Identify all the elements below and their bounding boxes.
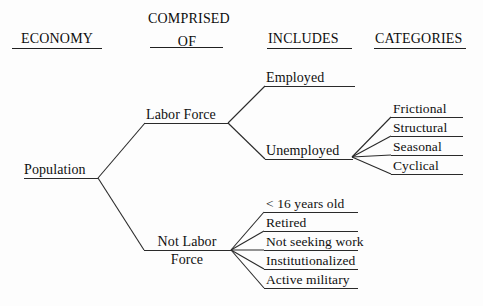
node-nlf-not-seeking-work-label: Not seeking work (266, 235, 364, 249)
column-header-includes-underline (267, 48, 352, 49)
node-employed-underline (265, 86, 355, 87)
node-labor-force-underline (144, 123, 228, 124)
node-labor-force: Labor Force (146, 108, 216, 122)
edge-not-labor-force-active-military (231, 250, 264, 288)
column-header-economy-underline (12, 48, 102, 49)
node-employed-label: Employed (266, 71, 324, 85)
node-category-frictional-underline (391, 117, 463, 118)
node-population-underline (24, 178, 98, 179)
node-nlf-under-16-years-old-underline (264, 212, 358, 213)
node-nlf-institutionalized: Institutionalized (266, 254, 355, 268)
node-not-labor-force-label-line-2-wrap: Force (144, 253, 230, 267)
node-category-cyclical: Cyclical (393, 159, 439, 173)
node-nlf-retired: Retired (266, 216, 306, 230)
economy-tree-diagram: ECONOMY COMPRISED OF INCLUDES CATEGORIES… (0, 0, 483, 306)
node-category-cyclical-underline (391, 174, 463, 175)
node-category-structural-label: Structural (393, 121, 447, 135)
column-header-comprised-of: COMPRISED OF (148, 11, 226, 50)
node-category-seasonal: Seasonal (393, 140, 442, 154)
edge-not-labor-force-under16 (231, 212, 264, 250)
node-nlf-active-military: Active military (266, 273, 350, 287)
node-nlf-not-seeking-work-underline (264, 250, 358, 251)
edge-not-labor-force-retired (231, 231, 264, 250)
node-nlf-active-military-label: Active military (266, 273, 350, 287)
column-header-includes: INCLUDES (268, 31, 348, 47)
node-nlf-under-16-years-old: < 16 years old (266, 197, 344, 211)
node-category-frictional-label: Frictional (393, 102, 447, 116)
column-header-categories-line-1: CATEGORIES (375, 31, 470, 47)
node-category-structural-underline (391, 136, 463, 137)
node-nlf-institutionalized-label: Institutionalized (266, 254, 355, 268)
column-header-economy-line-1: ECONOMY (12, 31, 102, 47)
node-unemployed: Unemployed (266, 144, 339, 158)
node-nlf-active-military-underline (264, 288, 358, 289)
node-category-structural: Structural (393, 121, 447, 135)
edge-unemployed-structural (352, 136, 391, 157)
node-nlf-retired-label: Retired (266, 216, 306, 230)
edge-unemployed-cyclical (352, 157, 391, 174)
edge-unemployed-seasonal (352, 155, 391, 157)
node-category-seasonal-underline (391, 155, 463, 156)
edge-not-labor-force-institutionalized (231, 250, 264, 269)
node-not-labor-force: Not Labor (144, 235, 230, 249)
column-header-comprised-of-underline (150, 47, 223, 48)
node-labor-force-label: Labor Force (146, 108, 216, 122)
edge-population-labor-force (98, 123, 145, 178)
node-nlf-retired-underline (264, 231, 358, 232)
node-population: Population (24, 163, 86, 177)
node-not-labor-force-underline (144, 250, 231, 251)
node-category-seasonal-label: Seasonal (393, 140, 442, 154)
column-header-categories: CATEGORIES (375, 31, 470, 47)
node-not-labor-force-label-line-1: Not Labor (144, 235, 230, 249)
node-category-frictional: Frictional (393, 102, 447, 116)
node-unemployed-underline (265, 159, 353, 160)
edge-labor-force-employed (228, 86, 265, 123)
edge-population-not-labor-force (98, 178, 144, 250)
column-header-includes-line-1: INCLUDES (268, 31, 348, 47)
column-header-comprised-of-line-1: COMPRISED (148, 11, 226, 27)
node-nlf-not-seeking-work: Not seeking work (266, 235, 364, 249)
column-header-categories-underline (374, 48, 466, 49)
node-population-label: Population (24, 163, 86, 177)
edge-labor-force-unemployed (228, 123, 265, 159)
node-employed: Employed (266, 71, 324, 85)
node-category-cyclical-label: Cyclical (393, 159, 439, 173)
node-nlf-institutionalized-underline (264, 269, 358, 270)
node-not-labor-force-label-line-2: Force (144, 253, 230, 267)
column-header-economy: ECONOMY (12, 31, 102, 47)
node-unemployed-label: Unemployed (266, 144, 339, 158)
node-nlf-under-16-years-old-label: < 16 years old (266, 197, 344, 211)
edge-unemployed-frictional (352, 117, 391, 157)
